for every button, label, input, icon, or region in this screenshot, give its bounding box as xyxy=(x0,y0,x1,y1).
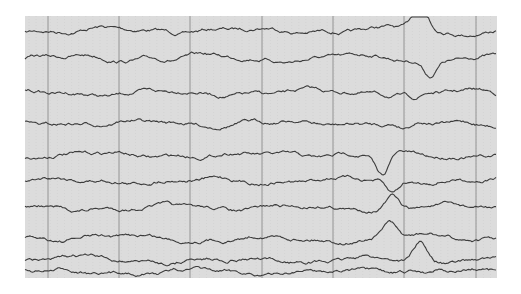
eeg-recording xyxy=(0,0,521,294)
